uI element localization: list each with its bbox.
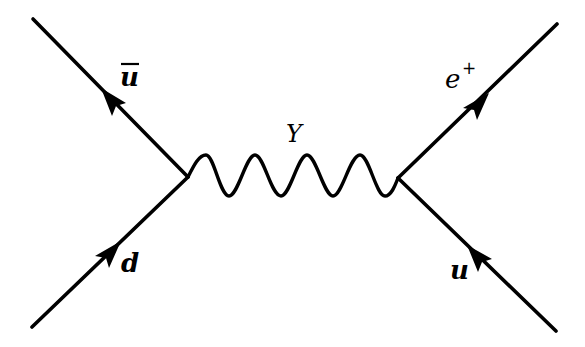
- arrow-icon: [467, 245, 492, 272]
- label-Y-boson: Y: [286, 120, 304, 148]
- Y-boson-propagator: [188, 155, 398, 196]
- svg-text:e: e: [445, 64, 460, 94]
- feynman-diagram: u d e + u Y: [0, 0, 585, 347]
- up-quark-line: [398, 178, 556, 331]
- label-positron: e +: [445, 58, 476, 94]
- positron-line: [398, 24, 557, 178]
- label-up-quark: u: [450, 255, 469, 285]
- arrow-icon: [463, 93, 489, 120]
- down-quark-line: [32, 177, 188, 327]
- label-anti-up-quark: u: [120, 62, 139, 92]
- anti-up-quark-line: [33, 19, 188, 177]
- svg-text:u: u: [120, 62, 139, 92]
- label-down-quark: d: [121, 248, 139, 278]
- svg-text:+: +: [462, 58, 476, 78]
